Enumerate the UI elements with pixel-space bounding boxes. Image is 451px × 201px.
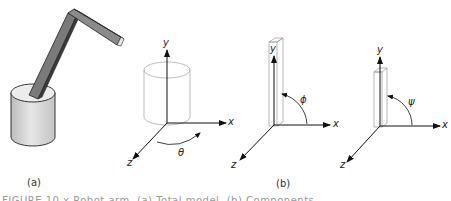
- y-axis-label-2: y: [270, 44, 276, 54]
- psi-angle-label: ψ: [408, 97, 415, 107]
- x-axis-label-2: x: [333, 119, 339, 129]
- theta-angle-label: θ: [178, 148, 184, 158]
- figure-canvas: [0, 0, 451, 201]
- z-axis-label-2: z: [231, 160, 236, 170]
- x-axis-label-1: x: [228, 117, 234, 127]
- upper-arm-rotation-diagram: [347, 57, 440, 162]
- y-axis-label-1: y: [163, 38, 169, 48]
- y-axis-label-3: y: [377, 45, 383, 55]
- z-axis-label-1: z: [127, 158, 132, 168]
- x-axis-label-3: x: [442, 120, 448, 130]
- robot-arm-model: [11, 9, 124, 146]
- figure-caption: FIGURE 10.x Robot arm. (a) Total model. …: [2, 195, 318, 201]
- base-rotation-diagram: [133, 50, 226, 159]
- z-axis-label-3: z: [340, 160, 345, 170]
- panel-label-b: (b): [276, 178, 290, 189]
- lower-arm-rotation-diagram: [240, 38, 330, 160]
- phi-angle-label: ϕ: [300, 95, 307, 105]
- panel-label-a: (a): [27, 177, 41, 188]
